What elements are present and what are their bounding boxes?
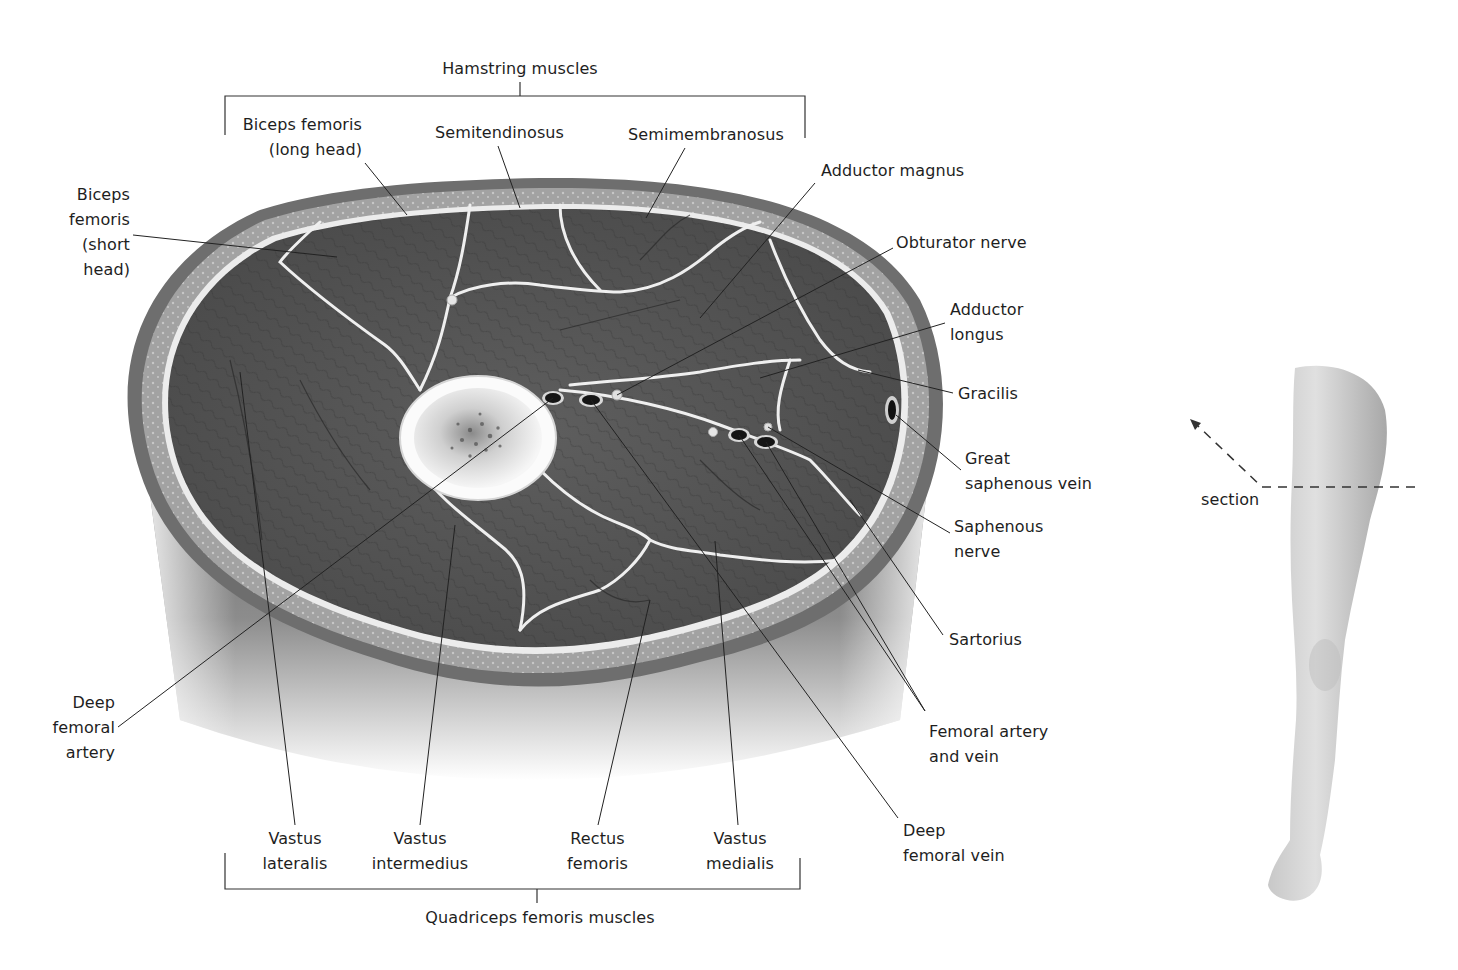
label-obturator-nerve: Obturator nerve	[896, 230, 1027, 255]
label-vastus-lateralis: Vastuslateralis	[245, 826, 345, 876]
label-semimembranosus: Semimembranosus	[628, 122, 784, 147]
quadriceps-group-title: Quadriceps femoris muscles	[410, 905, 670, 930]
label-adductor-magnus: Adductor magnus	[821, 158, 964, 183]
femur	[400, 376, 556, 500]
label-saphenous-nerve: Saphenousnerve	[954, 514, 1043, 564]
hamstring-group-title: Hamstring muscles	[430, 56, 610, 81]
thigh-cross-section-figure: Hamstring muscles Quadriceps femoris mus…	[0, 0, 1458, 970]
label-gracilis: Gracilis	[958, 381, 1018, 406]
great-saphenous-vein-vessel	[885, 396, 899, 424]
label-deep-femoral-vein: Deepfemoral vein	[903, 818, 1005, 868]
inset-leg	[1268, 360, 1400, 901]
label-adductor-longus: Adductorlongus	[950, 297, 1023, 347]
label-biceps-femoris-short-head: Bicepsfemoris(shorthead)	[30, 182, 130, 282]
label-biceps-femoris-long-head: Biceps femoris(long head)	[230, 112, 362, 162]
inset-section-label: section	[1201, 487, 1259, 512]
label-vastus-medialis: Vastusmedialis	[690, 826, 790, 876]
label-great-saphenous-vein: Greatsaphenous vein	[965, 446, 1092, 496]
label-femoral-artery-and-vein: Femoral arteryand vein	[929, 719, 1048, 769]
label-semitendinosus: Semitendinosus	[435, 120, 564, 145]
section-arrow-icon	[1190, 419, 1201, 430]
label-vastus-intermedius: Vastusintermedius	[360, 826, 480, 876]
label-rectus-femoris: Rectusfemoris	[550, 826, 645, 876]
label-deep-femoral-artery: Deepfemoralartery	[15, 690, 115, 765]
label-sartorius: Sartorius	[949, 627, 1022, 652]
